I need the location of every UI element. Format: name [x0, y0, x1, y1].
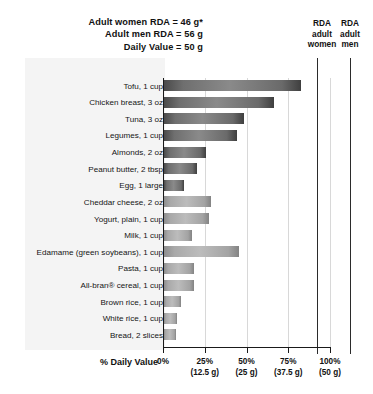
category-label: Pasta, 1 cup: [5, 264, 163, 273]
category-label: Edamame (green soybeans), 1 cup: [5, 248, 163, 257]
bar: [164, 113, 244, 124]
x-tick-25: [205, 348, 206, 353]
x-tick-grams: (50 g): [302, 368, 358, 379]
bar: [164, 163, 197, 174]
category-label: Legumes, 1 cup: [5, 131, 163, 140]
category-label: White rice, 1 cup: [5, 314, 163, 323]
x-tick-75: [288, 348, 289, 353]
bar: [164, 263, 194, 274]
x-axis-title: % Daily Value: [72, 357, 158, 367]
bar: [164, 246, 239, 257]
category-label: Egg, 1 large: [5, 181, 163, 190]
x-tick-percent: 25%: [197, 357, 213, 366]
x-tick-percent: 50%: [238, 357, 254, 366]
rda-line-men: [350, 58, 351, 354]
category-label: Tuna, 3 oz: [5, 115, 163, 124]
bar: [164, 147, 206, 158]
category-label: Peanut butter, 2 tbsp: [5, 165, 163, 174]
category-label: Yogurt, plain, 1 cup: [5, 215, 163, 224]
bar: [164, 80, 301, 91]
category-label: Almonds, 2 oz: [5, 148, 163, 157]
x-tick-0: [163, 348, 164, 353]
x-tick-label: 100%(50 g): [302, 357, 358, 378]
protein-daily-value-chart: Adult women RDA = 46 g* Adult men RDA = …: [0, 0, 373, 394]
bar: [164, 213, 209, 224]
gridline-50: [247, 78, 248, 347]
x-tick-percent: 0%: [157, 357, 169, 366]
category-label: Chicken breast, 3 oz: [5, 98, 163, 107]
bar: [164, 230, 192, 241]
bar: [164, 329, 176, 340]
category-label: Milk, 1 cup: [5, 231, 163, 240]
plot-area: Tofu, 1 cupChicken breast, 3 ozTuna, 3 o…: [0, 0, 373, 394]
category-label: Cheddar cheese, 2 oz: [5, 198, 163, 207]
x-tick-100: [330, 348, 331, 353]
x-tick-percent: 75%: [280, 357, 296, 366]
x-tick-50: [247, 348, 248, 353]
bar: [164, 196, 211, 207]
bar: [164, 180, 184, 191]
rda-line-women: [317, 58, 318, 354]
category-label: All-bran® cereal, 1 cup: [5, 281, 163, 290]
bar: [164, 280, 194, 291]
bar: [164, 130, 237, 141]
bar: [164, 313, 177, 324]
gridline-100: [330, 78, 331, 347]
category-label: Brown rice, 1 cup: [5, 298, 163, 307]
gridline-75: [288, 78, 289, 347]
bar: [164, 296, 181, 307]
y-axis-line: [163, 78, 164, 348]
category-label: Bread, 2 slices: [5, 331, 163, 340]
bar: [164, 97, 274, 108]
x-tick-percent: 100%: [320, 357, 341, 366]
category-label: Tofu, 1 cup: [5, 82, 163, 91]
